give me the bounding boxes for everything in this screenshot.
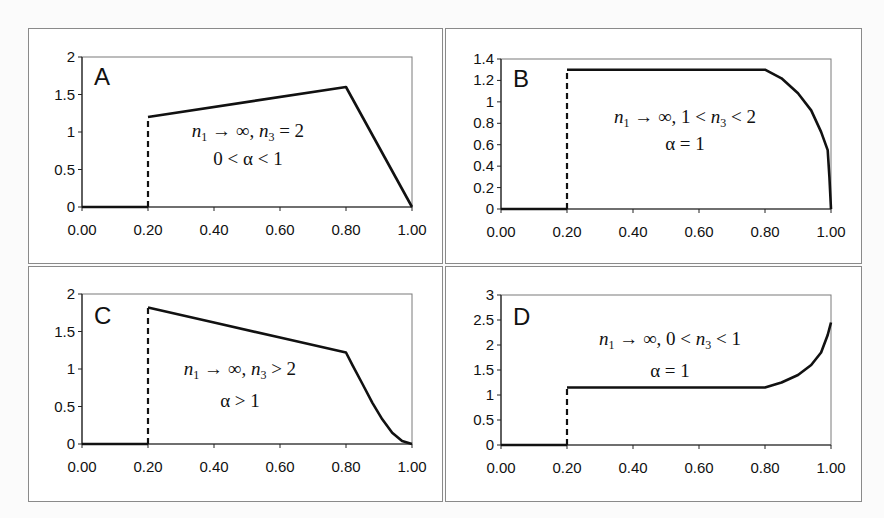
x-tick-label: 0.20 bbox=[133, 221, 162, 238]
y-tick-label: 1.5 bbox=[473, 361, 494, 378]
y-tick-label: 0.4 bbox=[473, 157, 494, 174]
x-tick-label: 0.00 bbox=[67, 221, 96, 238]
x-tick-label: 1.00 bbox=[397, 458, 426, 475]
x-tick-label: 0.60 bbox=[265, 221, 294, 238]
x-tick-label: 0.00 bbox=[486, 459, 515, 476]
panel-letter: D bbox=[513, 303, 530, 330]
annotation-alpha: α = 1 bbox=[665, 133, 705, 154]
panel-letter: A bbox=[94, 63, 110, 90]
y-tick-label: 0 bbox=[67, 198, 75, 215]
annotation-condition: n1 → ∞, 1 < n3 < 2 bbox=[614, 106, 756, 130]
data-line bbox=[148, 87, 412, 207]
annotation-condition: n1 → ∞, 0 < n3 < 1 bbox=[599, 328, 741, 352]
panel-b-chart: 00.20.40.60.811.21.40.000.200.400.600.80… bbox=[473, 50, 845, 240]
y-tick-label: 0.5 bbox=[473, 411, 494, 428]
annotation-condition: n1 → ∞, n3 = 2 bbox=[192, 120, 304, 144]
panel-letter: C bbox=[94, 302, 111, 329]
y-tick-label: 2 bbox=[67, 285, 75, 302]
x-tick-label: 0.60 bbox=[265, 458, 294, 475]
y-tick-label: 0.2 bbox=[473, 179, 494, 196]
x-tick-label: 0.40 bbox=[199, 221, 228, 238]
y-tick-label: 1.5 bbox=[54, 323, 75, 340]
y-tick-label: 1.4 bbox=[473, 50, 494, 67]
x-tick-label: 0.20 bbox=[552, 459, 581, 476]
figure-canvas: 00.511.520.000.200.400.600.801.00An1 → ∞… bbox=[0, 0, 884, 518]
y-tick-label: 2 bbox=[486, 336, 494, 353]
x-tick-label: 0.20 bbox=[133, 458, 162, 475]
x-tick-label: 0.00 bbox=[67, 458, 96, 475]
annotation-alpha: 0 < α < 1 bbox=[213, 148, 282, 169]
x-tick-label: 0.80 bbox=[331, 221, 360, 238]
y-tick-label: 1.5 bbox=[54, 86, 75, 103]
annotation-alpha: α > 1 bbox=[220, 390, 260, 411]
x-tick-label: 0.80 bbox=[750, 223, 779, 240]
y-tick-label: 1.2 bbox=[473, 71, 494, 88]
y-tick-label: 1 bbox=[486, 386, 494, 403]
y-tick-label: 1 bbox=[67, 123, 75, 140]
x-tick-label: 0.20 bbox=[552, 223, 581, 240]
y-tick-label: 0 bbox=[486, 436, 494, 453]
x-tick-label: 0.80 bbox=[331, 458, 360, 475]
y-tick-label: 0.5 bbox=[54, 161, 75, 178]
x-tick-label: 0.60 bbox=[684, 223, 713, 240]
annotation-alpha: α = 1 bbox=[650, 360, 690, 381]
y-tick-label: 3 bbox=[486, 286, 494, 303]
panel-a-chart: 00.511.520.000.200.400.600.801.00An1 → ∞… bbox=[54, 48, 426, 238]
y-tick-label: 0.5 bbox=[54, 398, 75, 415]
x-tick-label: 1.00 bbox=[816, 223, 845, 240]
y-tick-label: 0.8 bbox=[473, 114, 494, 131]
x-tick-label: 0.00 bbox=[486, 223, 515, 240]
y-tick-label: 0.6 bbox=[473, 136, 494, 153]
panel-letter: B bbox=[513, 65, 529, 92]
x-tick-label: 0.80 bbox=[750, 459, 779, 476]
x-tick-label: 0.40 bbox=[618, 223, 647, 240]
x-tick-label: 0.40 bbox=[618, 459, 647, 476]
y-tick-label: 2.5 bbox=[473, 311, 494, 328]
x-tick-label: 0.40 bbox=[199, 458, 228, 475]
x-tick-label: 1.00 bbox=[816, 459, 845, 476]
annotation-condition: n1 → ∞, n3 > 2 bbox=[184, 358, 296, 382]
panel-c-chart: 00.511.520.000.200.400.600.801.00Cn1 → ∞… bbox=[54, 285, 426, 475]
y-tick-label: 0 bbox=[67, 435, 75, 452]
y-tick-label: 1 bbox=[67, 360, 75, 377]
y-tick-label: 1 bbox=[486, 93, 494, 110]
x-tick-label: 0.60 bbox=[684, 459, 713, 476]
y-tick-label: 0 bbox=[486, 200, 494, 217]
y-tick-label: 2 bbox=[67, 48, 75, 65]
x-tick-label: 1.00 bbox=[397, 221, 426, 238]
panel-d-chart: 00.511.522.530.000.200.400.600.801.00Dn1… bbox=[473, 286, 845, 476]
